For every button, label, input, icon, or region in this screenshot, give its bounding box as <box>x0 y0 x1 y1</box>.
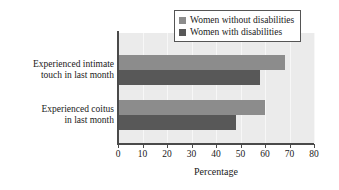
category-label-line: Experienced intimate <box>2 59 114 71</box>
x-tick-label: 0 <box>106 149 130 160</box>
category-label-line: touch in last month <box>2 70 114 82</box>
x-tick-mark <box>265 144 266 148</box>
x-tick-label: 30 <box>180 149 204 160</box>
x-tick-mark <box>118 144 119 148</box>
gridline <box>314 33 315 143</box>
bar-1-2 <box>118 70 260 85</box>
x-axis-title: Percentage <box>118 166 314 177</box>
legend-swatch-icon <box>179 29 186 36</box>
gridline <box>290 33 291 143</box>
legend-swatch-icon <box>179 17 186 24</box>
x-tick-mark <box>167 144 168 148</box>
bar-2-1 <box>118 100 265 115</box>
gridline <box>265 33 266 143</box>
x-tick-label: 60 <box>253 149 277 160</box>
x-tick-label: 50 <box>229 149 253 160</box>
chart-legend: Women without disabilitiesWomen with dis… <box>174 10 301 42</box>
legend-item-2: Women with disabilities <box>179 26 294 38</box>
x-tick-label: 10 <box>131 149 155 160</box>
bar-2-2 <box>118 115 236 130</box>
x-tick-mark <box>143 144 144 148</box>
category-label-1: Experienced intimatetouch in last month <box>2 59 114 82</box>
category-label-line: in last month <box>2 115 114 127</box>
x-tick-mark <box>192 144 193 148</box>
x-tick-label: 80 <box>302 149 326 160</box>
plot-area <box>118 33 314 143</box>
bar-chart: Experienced intimatetouch in last monthE… <box>0 0 339 190</box>
x-tick-mark <box>314 144 315 148</box>
bar-1-1 <box>118 55 285 70</box>
category-label-2: Experienced coitusin last month <box>2 104 114 127</box>
legend-label: Women without disabilities <box>190 15 294 26</box>
legend-label: Women with disabilities <box>190 27 282 38</box>
x-tick-mark <box>241 144 242 148</box>
x-tick-mark <box>216 144 217 148</box>
x-tick-label: 20 <box>155 149 179 160</box>
x-tick-mark <box>290 144 291 148</box>
gridline <box>241 33 242 143</box>
x-tick-label: 40 <box>204 149 228 160</box>
category-label-line: Experienced coitus <box>2 104 114 116</box>
x-tick-label: 70 <box>278 149 302 160</box>
legend-item-1: Women without disabilities <box>179 14 294 26</box>
y-axis-line <box>117 31 119 145</box>
